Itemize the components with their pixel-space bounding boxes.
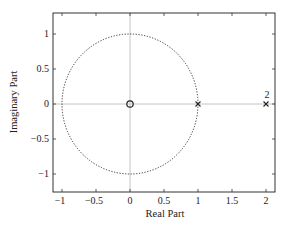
pole-zero-plot: −1 −0.5 0 0.5 1 1.5 2 1 0.5 0 −0.5 −1 Re… [0, 0, 286, 228]
y-tick-labels: 1 0.5 0 −0.5 −1 [31, 28, 49, 179]
x-axis-label: Real Part [146, 208, 185, 219]
pole-multiplicity-label: 2 [265, 89, 270, 100]
svg-text:0: 0 [128, 195, 133, 206]
svg-text:1.5: 1.5 [226, 195, 239, 206]
svg-text:0: 0 [44, 98, 49, 109]
x-tick-labels: −1 −0.5 0 0.5 1 1.5 2 [55, 195, 269, 206]
svg-text:1: 1 [44, 28, 49, 39]
svg-text:0.5: 0.5 [158, 195, 171, 206]
x-ticks [62, 13, 266, 192]
y-axis-label: Imaginary Part [8, 71, 19, 134]
svg-text:0.5: 0.5 [37, 63, 50, 74]
svg-text:−0.5: −0.5 [31, 133, 49, 144]
plot-frame [53, 13, 275, 192]
svg-text:1: 1 [196, 195, 201, 206]
svg-text:−0.5: −0.5 [85, 195, 103, 206]
svg-text:2: 2 [264, 195, 269, 206]
svg-text:−1: −1 [38, 168, 49, 179]
svg-text:−1: −1 [55, 195, 66, 206]
